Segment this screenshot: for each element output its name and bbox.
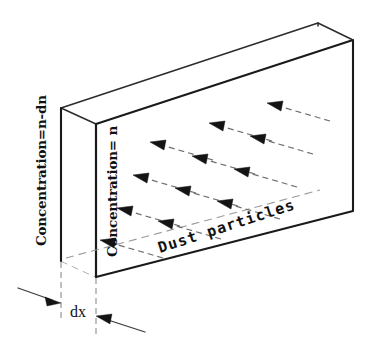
label-thickness-dx: dx xyxy=(70,303,86,320)
dim-leader-right xyxy=(108,320,145,332)
label-concentration-front: Concentration= n xyxy=(104,126,120,257)
dim-arrowhead-left xyxy=(45,297,61,306)
thickness-dimension-group xyxy=(18,262,145,338)
left-end-face xyxy=(61,108,96,277)
figure-canvas: Concentration=n-dn Concentration= n Dust… xyxy=(0,0,382,354)
label-concentration-back: Concentration=n-dn xyxy=(33,95,49,246)
dim-arrowhead-right xyxy=(96,314,112,324)
slab-diagram: Concentration=n-dn Concentration= n Dust… xyxy=(0,0,382,354)
